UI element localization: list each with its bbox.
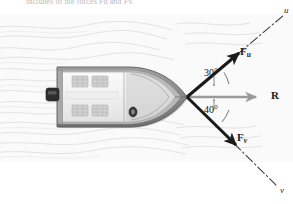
vector-fv-subscript: v bbox=[244, 136, 247, 145]
angle-lower-label: 40° bbox=[204, 105, 218, 115]
vector-fu-subscript: u bbox=[247, 50, 251, 59]
outboard-motor bbox=[46, 88, 59, 101]
boat-console bbox=[129, 107, 137, 117]
vector-resultant-label: R bbox=[271, 90, 279, 101]
vector-fu-symbol: F bbox=[240, 45, 247, 57]
figure-artwork bbox=[0, 0, 293, 204]
vector-fu-label: Fu bbox=[240, 46, 251, 59]
vector-fv-symbol: F bbox=[237, 131, 244, 143]
axis-u-label: u bbox=[284, 6, 289, 15]
angle-upper-label: 30° bbox=[204, 68, 218, 78]
figure-container: includes of the forces Fu and Fv. bbox=[0, 0, 293, 204]
vector-fv-label: Fv bbox=[237, 132, 247, 145]
axis-v-label: v bbox=[280, 186, 284, 195]
